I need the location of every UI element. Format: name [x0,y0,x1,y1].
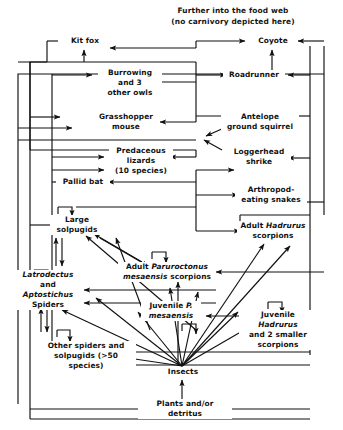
node-grasshopper: Grasshoppermouse [92,112,160,132]
node-latro: LatrodectusandAptostichusSpiders [17,270,79,311]
food-web-diagram: Further into the food web (no carnivory … [0,0,343,430]
node-lizards: Predaceouslizards(10 species) [109,146,173,177]
node-adult_paruro: Adult Paruroctonusmesaensis scorpions [118,262,216,282]
node-pallid_bat: Pallid bat [56,177,110,187]
title-line-2: (no carnivory depicted here) [133,17,333,28]
node-coyote: Coyote [248,36,298,46]
node-adult_hadrurus: Adult Hadrurusscorpions [237,221,309,241]
node-juv_hadrurus: Juvenile Hadrurusand 2 smallerscorpions [239,310,317,351]
node-roadrunner: Roadrunner [223,70,285,80]
node-other_spiders: Other spiders andsolpugids (>50 species) [36,341,136,372]
node-plants: Plants and/or detritus [138,399,232,419]
node-insects: Insects [162,367,204,377]
node-shrike: Loggerheadshrike [227,147,291,167]
node-large_solpug: Largesolpugids [50,215,104,235]
node-juv_paruro: Juvenile P.mesaensis [141,301,201,321]
title-line-1: Further into the food web [133,6,333,17]
node-owls: Burrowingand 3other owls [98,68,162,99]
diagram-title: Further into the food web (no carnivory … [133,6,333,27]
node-snakes: Arthropod-eating snakes [235,185,307,205]
node-squirrel: Antelopeground squirrel [221,112,299,132]
node-kit_fox: Kit fox [58,36,112,46]
